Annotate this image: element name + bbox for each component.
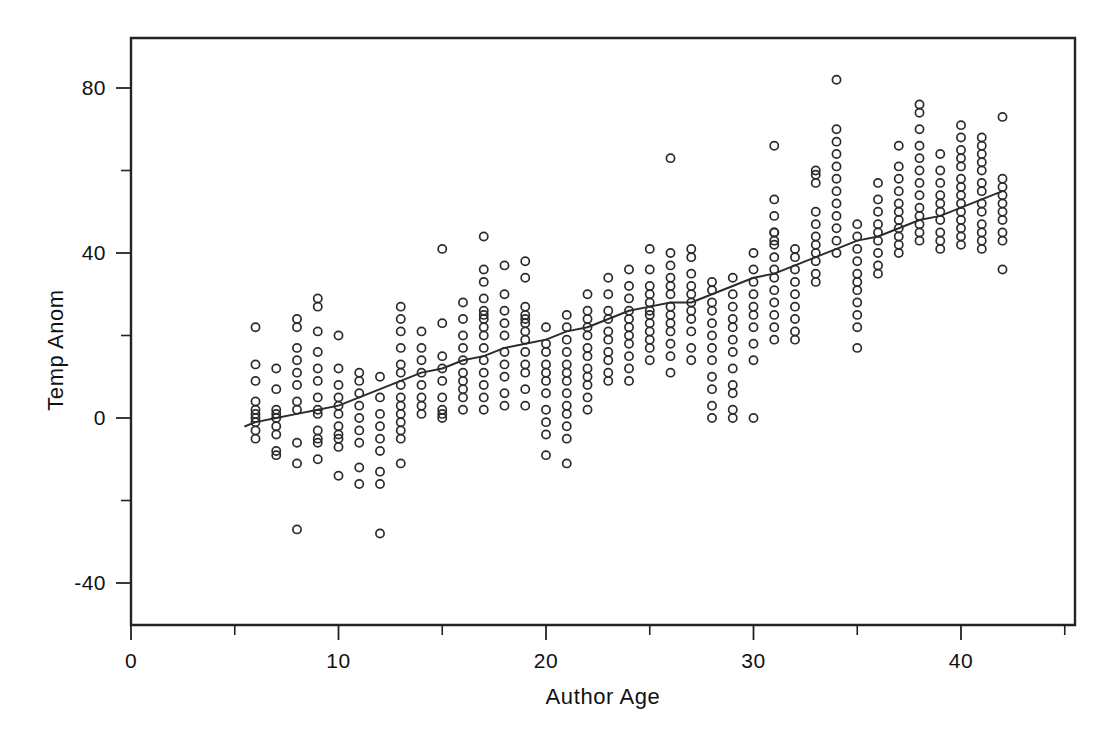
x-tick-label: 0	[125, 649, 137, 672]
y-tick-label: 0	[94, 406, 106, 429]
x-axis-title: Author Age	[546, 684, 661, 709]
figure-background	[0, 0, 1119, 733]
x-tick-label: 20	[534, 649, 558, 672]
x-tick-label: 10	[326, 649, 350, 672]
x-tick-label: 40	[949, 649, 973, 672]
y-tick-label: 40	[82, 241, 106, 264]
scatter-plot-figure: 010203040 80400-40 Author Age Temp Anom	[0, 0, 1119, 733]
y-tick-label: 80	[82, 76, 106, 99]
x-tick-label: 30	[741, 649, 765, 672]
plot-canvas: 010203040 80400-40 Author Age Temp Anom	[0, 0, 1119, 733]
y-axis-title: Temp Anom	[43, 289, 68, 411]
y-tick-label: -40	[74, 571, 106, 594]
